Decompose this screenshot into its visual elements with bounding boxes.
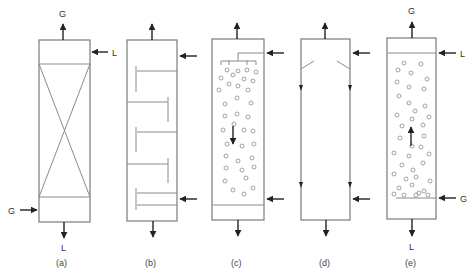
- film-arrow-icon: [348, 182, 352, 188]
- label-gas-in: G: [8, 206, 15, 216]
- column-b-plates: (b): [127, 24, 197, 268]
- label-gas-out: G: [59, 9, 66, 19]
- label-liquid-in: L: [112, 48, 117, 58]
- column-d-shell: [301, 39, 350, 220]
- caption-e: (e): [405, 258, 416, 268]
- caption-c: (c): [231, 258, 242, 268]
- label-liquid-out: L: [61, 243, 66, 253]
- column-b-shell: [127, 40, 177, 221]
- film-arrow-icon: [299, 85, 303, 91]
- caption-b: (b): [145, 258, 156, 268]
- caption-a: (a): [56, 258, 67, 268]
- column-c-shell: [212, 39, 264, 220]
- film-arrow-icon: [299, 182, 303, 188]
- label-liquid-out: L: [409, 242, 414, 252]
- label-liquid-in: L: [460, 49, 465, 59]
- caption-d: (d): [319, 258, 330, 268]
- droplets: [217, 68, 258, 196]
- film-arrow-icon: [348, 85, 352, 91]
- label-gas-out: G: [408, 6, 415, 16]
- spray-distributor: [221, 53, 264, 65]
- column-e-bubble: G L G L (e): [387, 6, 467, 268]
- column-a-packed: G L G L (a): [8, 9, 117, 268]
- bubbles: [392, 61, 432, 197]
- liquid-weir-left: [301, 61, 314, 69]
- column-c-spray: (c): [212, 23, 284, 268]
- contactor-diagram: G L G L (a) (b): [0, 0, 471, 273]
- liquid-weir-right: [337, 61, 350, 69]
- label-gas-in: G: [460, 194, 467, 204]
- column-d-wetted-wall: (d): [299, 23, 370, 268]
